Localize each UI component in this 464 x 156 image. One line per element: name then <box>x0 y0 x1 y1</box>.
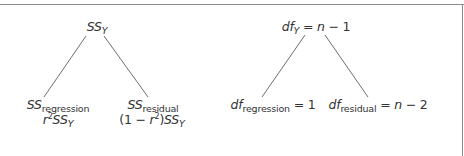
df-regression-label: dfregression = 1 <box>230 98 315 112</box>
df-total-label: dfY = n − 1 <box>282 20 351 34</box>
ss-regression-label: SSregression <box>27 98 90 112</box>
ss-total-label: SSY <box>87 20 108 34</box>
df-left-branch <box>262 35 305 97</box>
tree-connectors <box>0 0 464 156</box>
ss-regression-formula: r2SSY <box>43 113 73 127</box>
df-right-branch <box>325 35 368 97</box>
ss-right-branch <box>104 36 148 97</box>
ss-residual-formula: (1 − r2)SSY <box>119 113 184 127</box>
ss-left-branch <box>44 36 86 97</box>
ss-residual-label: SSresidual <box>127 98 178 112</box>
df-residual-label: dfresidual = n − 2 <box>328 98 427 112</box>
